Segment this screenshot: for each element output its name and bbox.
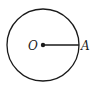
center-point: [41, 43, 45, 47]
label-center-O: O: [28, 39, 38, 53]
label-point-A: A: [80, 39, 90, 53]
circle-diagram: O A: [0, 0, 96, 88]
